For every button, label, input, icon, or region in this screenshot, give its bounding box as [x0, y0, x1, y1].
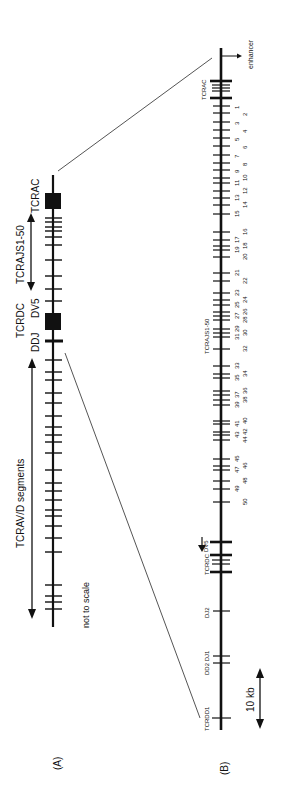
tcrav-d-span-arrow	[28, 358, 36, 619]
tcrac-constant-box	[45, 193, 61, 209]
j-segment-label: 4	[242, 129, 248, 133]
tcrdc-constant-box	[45, 313, 61, 330]
panel-a: TCRAC DV5 DDJ TCRDC TCRAJS1-50 TCRAV/D s…	[15, 175, 91, 770]
j-segment-label: 48	[242, 477, 248, 484]
j-segment-label: 45	[234, 455, 240, 462]
j-segment-label: 42	[242, 428, 248, 435]
scale-bar-10kb	[256, 668, 264, 729]
j-segment-label: 21	[234, 269, 240, 276]
j-segment-label: 28	[242, 316, 248, 323]
j-segment-label: 34	[242, 370, 248, 377]
tcraj-span-arrow	[27, 213, 35, 291]
tcr-locus-diagram: TCRAC DV5 DDJ TCRDC TCRAJS1-50 TCRAV/D s…	[0, 0, 284, 809]
panel-b-tcrdc-label: TCRDC	[204, 553, 210, 575]
j-segment-label: 32	[242, 345, 248, 352]
j-segment-label: 49	[234, 485, 240, 492]
panel-b-tcrac-label: TCRAC	[201, 79, 207, 100]
j-segment-label: 24	[242, 296, 248, 303]
j-segment-label: 43	[234, 431, 240, 438]
j-segment-label: 30	[242, 329, 248, 336]
enhancer-label: enhancer	[247, 39, 254, 69]
j-segment-label: 36	[242, 387, 248, 394]
j-segment-label: 39	[234, 401, 240, 408]
j-segment-label: 35	[234, 374, 240, 381]
zoom-connector-top	[58, 58, 212, 171]
enhancer-arrow-icon	[237, 54, 242, 59]
j-segment-label: 38	[242, 396, 248, 403]
j-segment-label: 46	[242, 462, 248, 469]
j-segment-label: 19	[234, 246, 240, 253]
tcrdd1-label: TCRDD1	[204, 706, 210, 731]
j-segment-label: 17	[234, 236, 240, 243]
j-segment-label: 41	[234, 420, 240, 427]
panel-b-tcraj-label: TCRAJS1-50	[204, 318, 210, 354]
dd2-dj1-label: DD2 DJ1	[204, 650, 210, 675]
panel-a-label: (A)	[52, 757, 63, 770]
j-segment-label: 15	[234, 210, 240, 217]
j-segment-label: 9	[234, 169, 240, 173]
ddj-label: DDJ	[30, 333, 41, 352]
dv5-label: DV5	[30, 298, 41, 318]
tcraj-label: TCRAJS1-50	[15, 225, 26, 284]
tcrdc-label: TCRDC	[15, 303, 26, 338]
j-segment-label: 25	[234, 301, 240, 308]
tcrav-d-segments-label: TCRAV/D segments	[15, 459, 26, 548]
j-segment-label: 8	[242, 162, 248, 166]
scale-label: 10 kb	[245, 687, 256, 712]
panel-b: enhancer TCRAC 1234567891011121314151617…	[198, 39, 264, 775]
j-segment-label: 37	[234, 391, 240, 398]
j-segment-label: 12	[242, 187, 248, 194]
j-segment-label: 1	[234, 105, 240, 109]
j-segment-label: 6	[242, 145, 248, 149]
j-segment-label: 13	[234, 194, 240, 201]
j-segment-label: 20	[242, 253, 248, 260]
j-segment-label: 23	[234, 289, 240, 296]
j-segment-label: 18	[242, 242, 248, 249]
j-segment-label: 2	[242, 112, 248, 116]
j-segment-label: 3	[234, 121, 240, 125]
j-segment-label: 22	[242, 277, 248, 284]
panel-b-label: (B)	[219, 762, 230, 775]
j-segment-labels: 1234567891011121314151617181920212223242…	[234, 105, 248, 505]
j-segment-label: 7	[234, 154, 240, 158]
j-segment-label: 14	[242, 201, 248, 208]
j-segment-label: 47	[234, 466, 240, 473]
j-segment-label: 10	[242, 174, 248, 181]
j-segment-label: 40	[242, 417, 248, 424]
j-segment-label: 44	[242, 436, 248, 443]
j-segment-label: 50	[242, 498, 248, 505]
j-segment-label: 26	[242, 308, 248, 315]
dj2-label: DJ2	[204, 607, 210, 618]
j-segment-label: 5	[234, 137, 240, 141]
tcrac-label: TCRAC	[30, 179, 41, 213]
not-to-scale-note: not to scale	[81, 582, 91, 628]
zoom-connector-bottom	[65, 353, 200, 718]
j-segment-label: 27	[234, 312, 240, 319]
j-segment-label: 33	[234, 362, 240, 369]
j-segment-label: 16	[242, 228, 248, 235]
j-segment-label: 11	[234, 179, 240, 186]
j-segment-label: 31	[234, 333, 240, 340]
j-segment-label: 29	[234, 325, 240, 332]
